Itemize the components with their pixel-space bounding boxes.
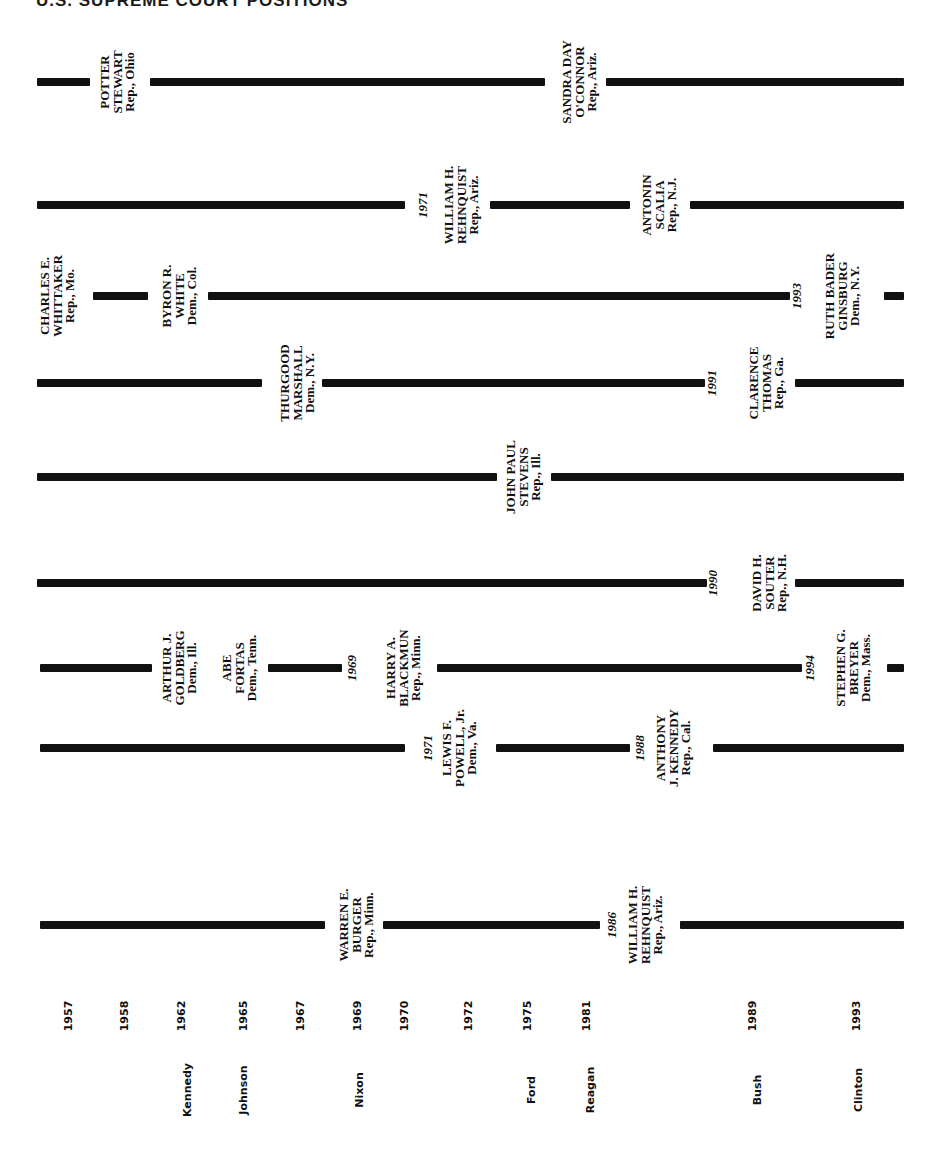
tenure-bar bbox=[884, 292, 904, 300]
tenure-bar bbox=[40, 664, 152, 672]
justice-label: HARRY A. BLACKMUN Rep., Minn. bbox=[385, 629, 423, 706]
justice-label: STEPHEN G. BREYER Dem., Mass. bbox=[835, 629, 873, 706]
tenure-bar bbox=[437, 664, 802, 672]
transition-year-label: 1993 bbox=[789, 283, 805, 309]
justice-label: CLARENCE THOMAS Rep., Ga. bbox=[748, 347, 786, 420]
tenure-bar bbox=[795, 379, 904, 387]
tenure-bar bbox=[887, 664, 904, 672]
tenure-bar bbox=[150, 78, 545, 86]
tenure-bar bbox=[680, 921, 904, 929]
tenure-bar bbox=[322, 379, 705, 387]
year-tick-label: 1989 bbox=[746, 1001, 759, 1032]
transition-year-label: 1986 bbox=[604, 912, 620, 938]
tenure-bar bbox=[40, 921, 325, 929]
president-label: Clinton bbox=[852, 1068, 865, 1112]
tenure-bar bbox=[37, 201, 405, 209]
president-label: Nixon bbox=[353, 1072, 366, 1107]
tenure-bar bbox=[606, 78, 904, 86]
justice-label: ANTHONY J. KENNEDY Rep., Cal. bbox=[655, 709, 693, 787]
tenure-bar bbox=[37, 379, 262, 387]
tenure-bar bbox=[37, 473, 497, 481]
year-tick-label: 1975 bbox=[521, 1001, 534, 1032]
year-tick-label: 1965 bbox=[237, 1001, 250, 1032]
justice-label: DAVID H. SOUTER Rep., N.H. bbox=[751, 554, 789, 612]
year-tick-label: 1967 bbox=[294, 1001, 307, 1032]
transition-year-label: 1990 bbox=[705, 570, 721, 596]
justice-label: RUTH BADER GINSBURG Dem., N.Y. bbox=[824, 253, 862, 339]
transition-year-label: 1988 bbox=[632, 735, 648, 761]
tenure-bar bbox=[713, 744, 904, 752]
tenure-bar bbox=[268, 664, 342, 672]
tenure-bar bbox=[490, 201, 630, 209]
tenure-bar bbox=[40, 744, 405, 752]
tenure-bar bbox=[93, 292, 148, 300]
timeline-canvas: POTTER STEWART Rep., OhioSANDRA DAY O'CO… bbox=[0, 0, 941, 1152]
year-tick-label: 1981 bbox=[580, 1001, 593, 1032]
transition-year-label: 1971 bbox=[415, 192, 431, 218]
tenure-bar bbox=[795, 579, 904, 587]
tenure-bar bbox=[37, 78, 90, 86]
justice-label: WILLIAM H. REHNQUIST Rep., Ariz. bbox=[443, 166, 481, 245]
tenure-bar bbox=[690, 201, 904, 209]
president-label: Kennedy bbox=[181, 1063, 194, 1117]
tenure-bar bbox=[37, 579, 707, 587]
transition-year-label: 1991 bbox=[704, 370, 720, 396]
justice-label: ARTHUR J. GOLDBERG Dem., Ill. bbox=[161, 630, 199, 705]
year-tick-label: 1962 bbox=[175, 1001, 188, 1032]
tenure-bar bbox=[208, 292, 790, 300]
year-tick-label: 1993 bbox=[850, 1001, 863, 1032]
president-label: Bush bbox=[751, 1075, 764, 1106]
justice-label: THURGOOD MARSHALL Dem., N.Y. bbox=[279, 344, 317, 421]
year-tick-label: 1970 bbox=[398, 1001, 411, 1032]
tenure-bar bbox=[551, 473, 904, 481]
president-label: Johnson bbox=[237, 1065, 250, 1114]
tenure-bar bbox=[383, 921, 600, 929]
justice-label: SANDRA DAY O'CONNOR Rep., Ariz. bbox=[561, 40, 599, 124]
year-tick-label: 1972 bbox=[462, 1001, 475, 1032]
justice-label: ABE FORTAS Dem., Tenn. bbox=[221, 635, 259, 701]
year-tick-label: 1958 bbox=[118, 1001, 131, 1032]
transition-year-label: 1971 bbox=[420, 735, 436, 761]
justice-label: BYRON R. WHITE Dem., Col. bbox=[161, 265, 199, 328]
year-tick-label: 1969 bbox=[351, 1001, 364, 1032]
justice-label: POTTER STEWART Rep., Ohio bbox=[99, 50, 137, 113]
president-label: Reagan bbox=[584, 1067, 597, 1113]
justice-label: JOHN PAUL STEVENS Rep., Ill. bbox=[505, 440, 543, 514]
justice-label: ANTONIN SCALIA Rep., N.J. bbox=[641, 174, 679, 235]
transition-year-label: 1994 bbox=[802, 655, 818, 681]
justice-label: LEWIS F. POWELL, Jr. Dem., Va. bbox=[441, 709, 479, 787]
tenure-bar bbox=[496, 744, 630, 752]
year-tick-label: 1957 bbox=[62, 1001, 75, 1032]
transition-year-label: 1969 bbox=[344, 655, 360, 681]
justice-label: WARREN E. BURGER Rep., Minn. bbox=[338, 889, 376, 962]
justice-label: CHARLES E. WHITTAKER Rep., Mo. bbox=[39, 255, 77, 337]
justice-label: WILLIAM H. REHNQUIST Rep., Ariz. bbox=[627, 886, 665, 965]
president-label: Ford bbox=[525, 1076, 538, 1104]
